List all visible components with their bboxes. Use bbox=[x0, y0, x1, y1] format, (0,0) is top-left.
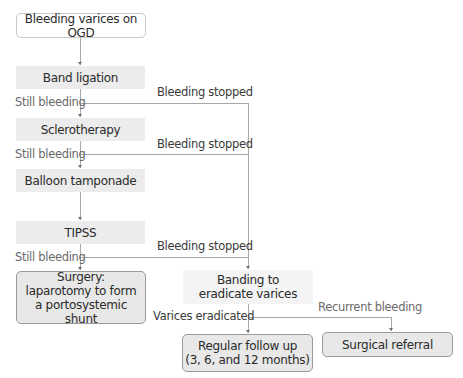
node-bleeding-varices: Bleeding varices on OGD bbox=[16, 13, 146, 38]
node-band-ligation: Band ligation bbox=[16, 66, 145, 89]
arrowhead-icon bbox=[246, 266, 250, 269]
connector-recurrent bbox=[248, 317, 391, 318]
arrowhead-icon bbox=[78, 267, 82, 270]
node-regular-follow-up: Regular follow up (3, 6, and 12 months) bbox=[182, 334, 313, 372]
label-recurrent-bleeding: Recurrent bleeding bbox=[318, 300, 422, 314]
node-banding: Banding to eradicate varices bbox=[183, 270, 313, 304]
node-label: TIPSS bbox=[65, 226, 97, 240]
node-label: Surgery: laparotomy to form a portosyste… bbox=[23, 270, 139, 326]
label-still-bleeding-3: Still bleeding bbox=[15, 250, 86, 264]
node-label: Balloon tamponade bbox=[25, 174, 137, 188]
arrowhead-icon bbox=[78, 217, 82, 220]
arrowhead-icon bbox=[246, 330, 250, 333]
node-surgery: Surgery: laparotomy to form a portosyste… bbox=[16, 271, 146, 324]
connector-band-stopped bbox=[80, 103, 248, 104]
connector-balloon-to-tipss bbox=[80, 192, 81, 220]
connector-start-to-band bbox=[80, 38, 81, 65]
arrowhead-icon bbox=[78, 165, 82, 168]
node-tipss: TIPSS bbox=[16, 221, 145, 244]
node-sclerotherapy: Sclerotherapy bbox=[16, 118, 145, 141]
node-balloon-tamponade: Balloon tamponade bbox=[16, 169, 145, 192]
label-bleeding-stopped-2: Bleeding stopped bbox=[157, 137, 253, 151]
arrowhead-icon bbox=[389, 328, 393, 331]
node-label: Sclerotherapy bbox=[41, 123, 121, 137]
connector-sclero-stopped bbox=[80, 154, 248, 155]
node-label: Band ligation bbox=[43, 71, 118, 85]
node-label: Surgical referral bbox=[342, 338, 433, 352]
node-label-line1: Regular follow up bbox=[198, 339, 297, 353]
node-surgical-referral: Surgical referral bbox=[322, 332, 453, 357]
label-still-bleeding-2: Still bleeding bbox=[15, 147, 86, 161]
arrowhead-icon bbox=[78, 114, 82, 117]
label-still-bleeding-1: Still bleeding bbox=[15, 95, 86, 109]
node-label: Bleeding varices on OGD bbox=[17, 12, 145, 40]
label-varices-eradicated: Varices eradicated bbox=[153, 309, 254, 323]
label-bleeding-stopped-3: Bleeding stopped bbox=[157, 239, 253, 253]
connector-tipss-stopped bbox=[80, 257, 248, 258]
node-label: Banding to eradicate varices bbox=[191, 273, 305, 301]
node-label-line2: (3, 6, and 12 months) bbox=[185, 353, 309, 367]
arrowhead-icon bbox=[78, 62, 82, 65]
label-bleeding-stopped-1: Bleeding stopped bbox=[157, 85, 253, 99]
